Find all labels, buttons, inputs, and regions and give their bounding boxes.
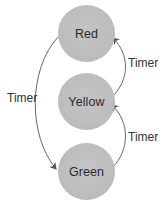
state-green-label: Green <box>69 165 104 179</box>
edge-green-to-yellow <box>112 105 126 168</box>
edge-red-to-green <box>35 37 58 169</box>
edge-label-yellow-to-red: Timer <box>128 56 158 70</box>
state-red-label: Red <box>75 27 98 41</box>
edge-label-green-to-yellow: Timer <box>128 130 158 144</box>
edge-label-red-to-green: Timer <box>7 91 37 105</box>
state-yellow: Yellow <box>58 73 115 130</box>
edge-yellow-to-red <box>111 38 126 98</box>
state-yellow-label: Yellow <box>68 95 104 109</box>
traffic-light-state-diagram: Red Yellow Green Timer Timer Timer <box>0 0 164 209</box>
state-red: Red <box>58 5 115 62</box>
state-green: Green <box>58 143 115 200</box>
